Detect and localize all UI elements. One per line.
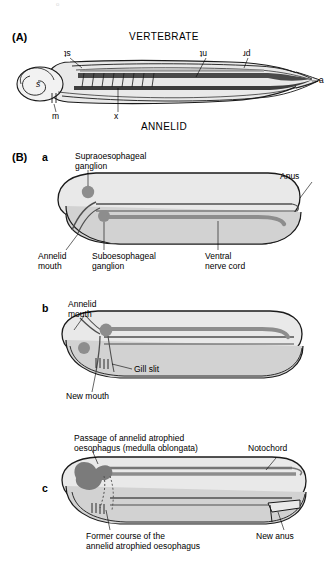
- stage-c-label-new-anus: New anus: [256, 532, 294, 542]
- stage-c-label-former-course: Former course of the annelid atrophied o…: [86, 532, 200, 551]
- stage-c-drawing: [0, 0, 328, 567]
- figure-root: o (A) VERTEBRATE ANNELID: [0, 0, 328, 567]
- stage-c-label-notochord: Notochord: [248, 444, 287, 454]
- stage-c-label-passage: Passage of annelid atrophied oesophagus …: [74, 434, 198, 453]
